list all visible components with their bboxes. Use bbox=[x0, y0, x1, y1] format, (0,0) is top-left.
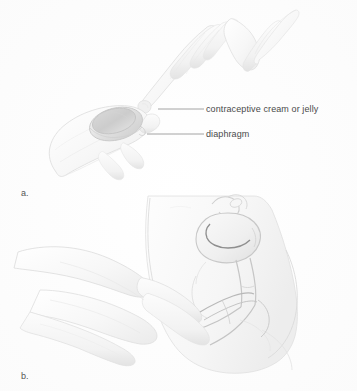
figure-root: contraceptive cream or jelly diaphragm a… bbox=[0, 0, 357, 391]
label-diaphragm: diaphragm bbox=[206, 129, 249, 139]
label-contraceptive-cream: contraceptive cream or jelly bbox=[206, 104, 318, 114]
uterus-body bbox=[196, 213, 260, 263]
panel-letter-a: a. bbox=[21, 188, 29, 198]
uterus-group bbox=[196, 213, 260, 263]
illustration-canvas bbox=[0, 0, 357, 391]
panel-letter-b: b. bbox=[21, 371, 29, 381]
